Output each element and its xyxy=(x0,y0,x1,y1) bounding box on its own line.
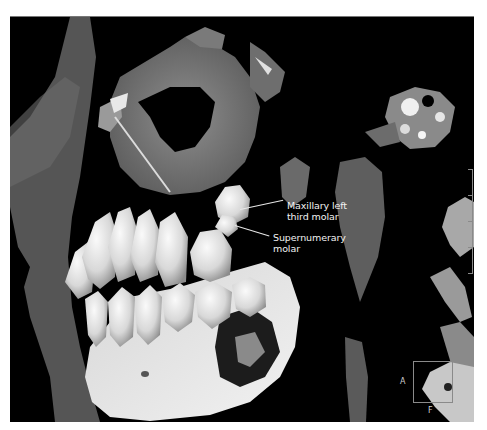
ct-volume-render xyxy=(10,17,474,422)
annotation-line-1: Maxillary left xyxy=(287,200,347,211)
ct-render-viewport: Maxillary left third molar Supernumerary… xyxy=(10,16,474,422)
maxillary-molar xyxy=(190,229,232,282)
scale-ruler xyxy=(466,169,473,274)
orientation-letter-bottom: F xyxy=(428,406,433,415)
orientation-indicator-box xyxy=(413,361,453,403)
soft-tissue-profile xyxy=(10,17,100,422)
annotation-line-1: Supernumerary xyxy=(273,232,346,243)
mental-foramen xyxy=(141,371,149,377)
annotation-line-2: third molar xyxy=(287,211,347,222)
annotation-supernumerary-molar: Supernumerary molar xyxy=(273,232,346,254)
annotation-line-2: molar xyxy=(273,243,346,254)
orientation-letter-anterior: A xyxy=(400,377,405,386)
annotation-maxillary-left-third-molar: Maxillary left third molar xyxy=(287,200,347,222)
